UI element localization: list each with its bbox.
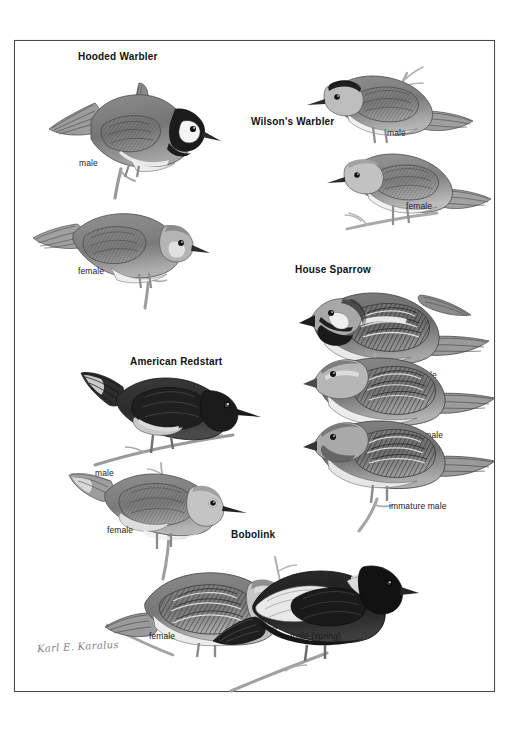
label-house-sparrow-immature-male: immature male xyxy=(389,502,447,511)
label-american-redstart-female: female xyxy=(107,526,133,535)
species-title-house-sparrow: House Sparrow xyxy=(295,265,371,275)
bird-figure-hooded-warbler-male xyxy=(43,65,223,200)
bird-plate-frame: Hooded Warbler xyxy=(14,40,495,692)
species-title-bobolink: Bobolink xyxy=(231,530,275,540)
label-bobolink-female: female xyxy=(149,632,175,641)
label-hooded-warbler-male: male xyxy=(79,159,98,168)
species-title-hooded-warbler: Hooded Warbler xyxy=(78,52,158,62)
bird-figure-house-sparrow-immature-male xyxy=(303,409,503,534)
bird-figure-wilsons-warbler-female xyxy=(327,129,497,244)
label-bobolink-male-spring: male (spring) xyxy=(290,632,341,641)
bird-figure-hooded-warbler-female xyxy=(31,196,211,311)
label-hooded-warbler-female: female xyxy=(78,267,104,276)
bird-figure-bobolink-male-spring xyxy=(211,541,421,696)
label-wilsons-warbler-female: female xyxy=(406,202,432,211)
